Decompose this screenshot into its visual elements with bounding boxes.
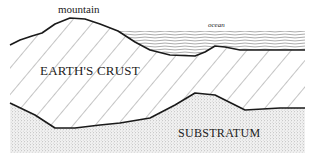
crust-label: EARTH'S CRUST: [40, 63, 140, 79]
ocean-label: ocean: [208, 21, 225, 29]
earth-crust-diagram: [0, 0, 315, 160]
substratum-label: SUBSTRATUM: [178, 126, 260, 141]
mountain-label: mountain: [58, 3, 100, 15]
